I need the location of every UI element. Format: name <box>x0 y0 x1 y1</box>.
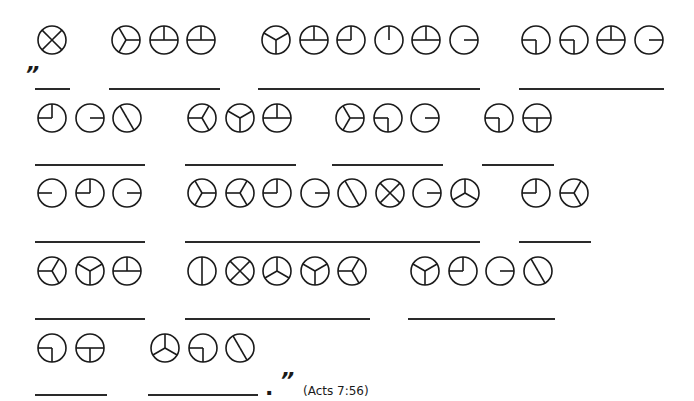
cipher-glyph-qdl-icon <box>483 102 515 134</box>
answer-blank-2[interactable] <box>109 88 220 90</box>
cipher-glyph-qdl-icon <box>36 332 68 364</box>
cipher-glyph-th-icon <box>111 255 143 287</box>
answer-blank-12[interactable] <box>35 318 145 320</box>
cipher-glyph-yup-icon <box>149 332 181 364</box>
cipher-glyph-qdl-icon <box>520 24 552 56</box>
cipher-glyph-rr-icon <box>299 177 331 209</box>
answer-blank-9[interactable] <box>35 241 145 243</box>
cipher-glyph-qdl-icon <box>558 24 590 56</box>
cipher-glyph-rr-icon <box>448 24 480 56</box>
answer-blank-16[interactable] <box>148 394 258 396</box>
cipher-glyph-v-icon <box>186 255 218 287</box>
cipher-glyph-rr-icon <box>484 255 516 287</box>
cipher-glyph-yl-icon <box>336 255 368 287</box>
cipher-glyph-qul-icon <box>335 24 367 56</box>
cipher-glyph-x-icon <box>374 177 406 209</box>
close-quote: ” <box>280 370 294 392</box>
answer-blank-6[interactable] <box>185 164 296 166</box>
cipher-glyph-sl-icon <box>336 177 368 209</box>
answer-blank-13[interactable] <box>185 318 370 320</box>
period: . <box>265 377 273 399</box>
cipher-glyph-yr-icon <box>110 24 142 56</box>
cipher-glyph-tb-icon <box>74 332 106 364</box>
answer-blank-1[interactable] <box>35 88 70 90</box>
cipher-glyph-yup-icon <box>261 255 293 287</box>
cipher-glyph-yr-icon <box>186 177 218 209</box>
cipher-glyph-th-icon <box>185 24 217 56</box>
cipher-glyph-qul-icon <box>261 177 293 209</box>
cipher-glyph-yl-icon <box>558 177 590 209</box>
answer-blank-15[interactable] <box>35 394 107 396</box>
cipher-glyph-tb-icon <box>521 102 553 134</box>
answer-blank-5[interactable] <box>35 164 145 166</box>
cipher-glyph-sl-icon <box>224 332 256 364</box>
cipher-glyph-rr-icon <box>74 102 106 134</box>
scripture-reference: (Acts 7:56) <box>303 384 369 398</box>
cipher-glyph-yup-icon <box>449 177 481 209</box>
cipher-glyph-ym-icon <box>74 255 106 287</box>
cipher-glyph-rr-icon <box>411 177 443 209</box>
cipher-glyph-qul-icon <box>36 102 68 134</box>
cipher-glyph-th-icon <box>595 24 627 56</box>
cipher-glyph-ym-icon <box>299 255 331 287</box>
cipher-glyph-sl-icon <box>522 255 554 287</box>
cipher-glyph-th-icon <box>298 24 330 56</box>
answer-blank-8[interactable] <box>482 164 554 166</box>
cipher-glyph-th-icon <box>261 102 293 134</box>
cipher-glyph-yl-icon <box>186 102 218 134</box>
answer-blank-4[interactable] <box>519 88 664 90</box>
cipher-glyph-th-icon <box>410 24 442 56</box>
cipher-glyph-ym-icon <box>260 24 292 56</box>
cipher-glyph-iu-icon <box>373 24 405 56</box>
cipher-glyph-yl-icon <box>36 255 68 287</box>
answer-blank-14[interactable] <box>408 318 555 320</box>
answer-blank-3[interactable] <box>258 88 480 90</box>
cipher-glyph-yr-icon <box>334 102 366 134</box>
cipher-glyph-ll-icon <box>36 177 68 209</box>
cipher-glyph-yl-icon <box>224 177 256 209</box>
cipher-glyph-ym-icon <box>224 102 256 134</box>
open-quote: ” <box>25 64 39 86</box>
cipher-glyph-qul-icon <box>74 177 106 209</box>
answer-blank-11[interactable] <box>519 241 591 243</box>
cipher-glyph-sl-icon <box>111 102 143 134</box>
cipher-glyph-rr-icon <box>633 24 665 56</box>
cipher-glyph-th-icon <box>148 24 180 56</box>
cipher-glyph-qul-icon <box>447 255 479 287</box>
cipher-glyph-qdl-icon <box>372 102 404 134</box>
cipher-glyph-rr-icon <box>111 177 143 209</box>
answer-blank-7[interactable] <box>332 164 443 166</box>
cipher-glyph-qdl-icon <box>187 332 219 364</box>
cipher-glyph-x-icon <box>224 255 256 287</box>
cipher-glyph-x-icon <box>36 24 68 56</box>
cipher-glyph-ym-icon <box>409 255 441 287</box>
answer-blank-10[interactable] <box>185 241 480 243</box>
cipher-glyph-rr-icon <box>409 102 441 134</box>
cipher-glyph-qul-icon <box>520 177 552 209</box>
